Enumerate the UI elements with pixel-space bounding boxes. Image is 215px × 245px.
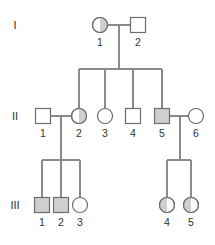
individual-number-label: 2: [58, 216, 64, 228]
individual-number-label: 2: [76, 127, 82, 139]
individual-number-label: 3: [102, 127, 108, 139]
individual-iii-3: [73, 198, 88, 213]
carrier-half-shading-icon: [160, 198, 167, 213]
individual-number-label: 1: [40, 127, 46, 139]
carrier-half-shading-icon: [100, 18, 108, 33]
individual-number-label: 2: [135, 36, 141, 48]
individual-i-2: [131, 18, 146, 33]
generation-label-iii: III: [10, 199, 19, 211]
generation-labels: IIIIII: [10, 19, 19, 211]
individual-iii-1: [35, 198, 50, 213]
individual-number-label: 5: [188, 216, 194, 228]
individual-number-label: 5: [159, 127, 165, 139]
individual-iii-5: [184, 198, 199, 213]
male-square-icon: [131, 18, 146, 33]
female-circle-icon: [189, 109, 204, 124]
individual-ii-4: [126, 109, 141, 124]
individual-ii-2: [72, 109, 87, 124]
individual-number-label: 1: [39, 216, 45, 228]
individual-ii-6: [189, 109, 204, 124]
individual-iii-2: [54, 198, 69, 213]
female-circle-icon: [73, 198, 88, 213]
generation-label-i: I: [13, 19, 16, 31]
individual-number-label: 4: [164, 216, 170, 228]
female-circle-icon: [98, 109, 113, 124]
male-square-icon: [54, 198, 69, 213]
individual-i-1: [93, 18, 108, 33]
individual-number-label: 3: [77, 216, 83, 228]
individual-number-label: 4: [130, 127, 136, 139]
individual-ii-3: [98, 109, 113, 124]
individual-ii-1: [36, 109, 51, 124]
generation-label-ii: II: [12, 110, 18, 122]
individual-ii-5: [155, 109, 170, 124]
individual-number-label: 6: [193, 127, 199, 139]
male-square-icon: [35, 198, 50, 213]
male-square-icon: [155, 109, 170, 124]
male-square-icon: [126, 109, 141, 124]
pedigree-diagram: IIIIII 1212345612345: [0, 0, 215, 245]
male-square-icon: [36, 109, 51, 124]
individual-iii-4: [160, 198, 175, 213]
carrier-half-shading-icon: [79, 109, 87, 124]
individual-number-label: 1: [97, 36, 103, 48]
carrier-half-shading-icon: [184, 198, 192, 213]
